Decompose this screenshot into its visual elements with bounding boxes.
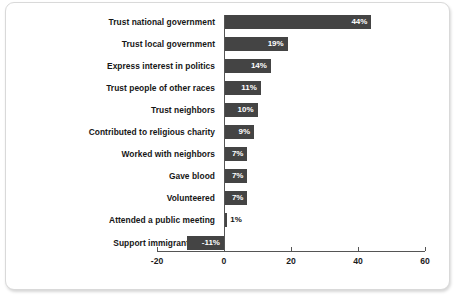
bar: -11% [187,236,224,250]
category-label: Gave blood [0,171,215,181]
bar: 9% [224,125,254,139]
bar-value-label: 7% [232,191,244,205]
chart-frame: Trust national government44%Trust local … [5,2,450,290]
x-tick [425,247,426,251]
axis-line [157,251,425,252]
bar: 44% [224,15,371,29]
bar: 19% [224,37,288,51]
bar-value-label: 7% [232,147,244,161]
bar-value-label: 1% [230,213,242,227]
bar-value-label: 14% [251,59,267,73]
x-tick [291,247,292,251]
bar: 7% [224,191,247,205]
bar-value-label: 10% [237,103,253,117]
x-tick [224,247,225,251]
category-label: Trust local government [0,39,215,49]
x-tick-label: 60 [405,256,445,266]
bar: 7% [224,169,247,183]
category-label: Volunteered [0,193,215,203]
category-label: Trust people of other races [0,83,215,93]
x-tick [358,247,359,251]
bar-value-label: 44% [351,15,367,29]
x-tick-label: -20 [137,256,177,266]
category-label: Attended a public meeting [0,215,215,225]
zero-line [224,15,225,251]
bar-value-label: 11% [241,81,257,95]
bar-chart: Trust national government44%Trust local … [6,3,451,291]
bar: 14% [224,59,271,73]
category-label: Support immigrant rights [0,238,215,248]
bar: 7% [224,147,247,161]
x-tick-label: 40 [338,256,378,266]
category-label: Express interest in politics [0,61,215,71]
x-tick-label: 0 [204,256,244,266]
bar-value-label: 19% [268,37,284,51]
x-tick [157,247,158,251]
category-label: Trust national government [0,17,215,27]
category-label: Trust neighbors [0,105,215,115]
x-tick-label: 20 [271,256,311,266]
bar: 11% [224,81,261,95]
category-label: Worked with neighbors [0,149,215,159]
bar: 10% [224,103,258,117]
bar-value-label: -11% [202,236,220,250]
category-label: Contributed to religious charity [0,127,215,137]
bar-value-label: 9% [239,125,251,139]
bar-value-label: 7% [232,169,244,183]
